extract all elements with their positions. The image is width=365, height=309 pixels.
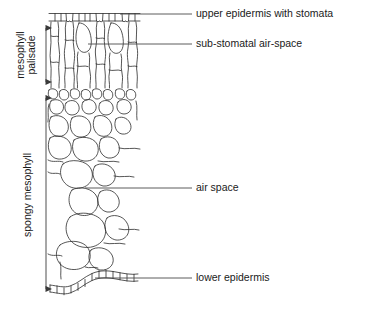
label-upper-epidermis: upper epidermis with stomata [120,7,333,19]
label-sub-stomatal-air-space: sub-stomatal air-space [88,37,302,49]
diagram-canvas: palisade mesophyll spongy mesophyll uppe… [0,0,365,309]
upper-epidermis-cells [49,14,140,23]
palisade-label-line2: mesophyll [14,31,26,78]
spongy-label-line1: spongy mesophyll [21,153,33,237]
spongy-mesophyll-mid-cells [48,115,140,188]
stoma-pore [123,21,129,22]
leaf-cross-section-diagram: palisade mesophyll spongy mesophyll uppe… [0,0,365,309]
stoma-pore [67,21,73,22]
spongy-mesophyll-label: spongy mesophyll [21,153,33,237]
spongy-mesophyll-upper-cells [48,89,137,122]
palisade-mesophyll-cells [50,22,138,88]
palisade-mesophyll-label: palisade mesophyll [14,31,37,78]
label-air-space: air space [85,181,239,193]
spongy-mesophyll-lower-cells [48,188,139,279]
lower-epidermis-cells [50,270,138,294]
stoma-pore [97,21,103,22]
label-text-sub-stomatal-air-space: sub-stomatal air-space [196,37,302,49]
label-text-air-space: air space [196,181,239,193]
label-text-upper-epidermis: upper epidermis with stomata [196,7,333,19]
palisade-label-line1: palisade [25,35,37,74]
label-text-lower-epidermis: lower epidermis [196,271,270,283]
